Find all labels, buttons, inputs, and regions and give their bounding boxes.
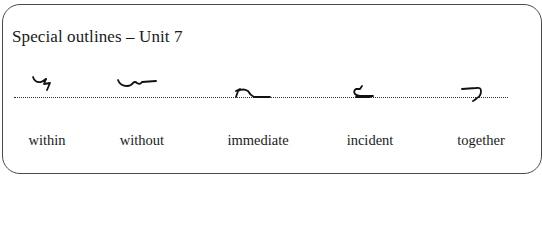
- outline-label-immediate: immediate: [227, 132, 288, 149]
- shorthand-outline-together-icon: [462, 88, 481, 101]
- outline-label-without: without: [120, 132, 164, 149]
- outline-label-within: within: [28, 132, 65, 149]
- outline-label-incident: incident: [347, 132, 394, 149]
- shorthand-outline-immediate-icon: [236, 89, 270, 97]
- shorthand-outline-without-icon: [118, 80, 156, 86]
- shorthand-outline-incident-icon: [354, 86, 373, 97]
- shorthand-outline-within-icon: [33, 77, 50, 90]
- outline-label-together: together: [457, 132, 505, 149]
